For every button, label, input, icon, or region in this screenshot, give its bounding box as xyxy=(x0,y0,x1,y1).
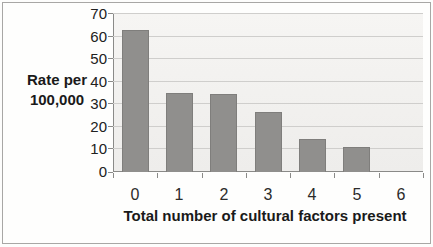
y-tick-label: 40 xyxy=(67,73,107,91)
x-tick-label: 6 xyxy=(386,186,416,204)
x-tick-mark xyxy=(290,173,291,178)
x-tick-label: 3 xyxy=(253,186,283,204)
y-tick-mark xyxy=(108,126,113,127)
x-tick-mark xyxy=(202,173,203,178)
y-tick-mark xyxy=(108,13,113,14)
x-tick-mark xyxy=(113,173,114,178)
y-tick-mark xyxy=(108,36,113,37)
y-tick-label: 30 xyxy=(67,95,107,113)
x-tick-mark xyxy=(423,173,424,178)
gridline xyxy=(113,103,423,104)
gridline xyxy=(113,13,423,14)
y-tick-label: 50 xyxy=(67,50,107,68)
bar xyxy=(255,112,282,172)
y-tick-label: 0 xyxy=(67,163,107,181)
x-tick-label: 2 xyxy=(209,186,239,204)
y-tick-mark xyxy=(108,81,113,82)
gridline xyxy=(113,58,423,59)
y-tick-mark xyxy=(108,103,113,104)
bar xyxy=(210,94,237,172)
bar xyxy=(166,93,193,172)
y-tick-label: 70 xyxy=(67,5,107,23)
bar-chart: Rate per 100,000 Total number of cultura… xyxy=(0,0,433,247)
x-tick-mark xyxy=(334,173,335,178)
bar xyxy=(343,147,370,172)
x-tick-label: 5 xyxy=(342,186,372,204)
gridline xyxy=(113,36,423,37)
y-tick-label: 10 xyxy=(67,140,107,158)
x-tick-label: 4 xyxy=(297,186,327,204)
x-tick-label: 1 xyxy=(164,186,194,204)
x-axis-title: Total number of cultural factors present xyxy=(100,207,430,224)
x-tick-mark xyxy=(157,173,158,178)
bar xyxy=(299,139,326,172)
x-tick-mark xyxy=(379,173,380,178)
y-tick-label: 20 xyxy=(67,118,107,136)
bar xyxy=(122,30,149,172)
x-tick-mark xyxy=(246,173,247,178)
gridline xyxy=(113,81,423,82)
y-tick-label: 60 xyxy=(67,28,107,46)
x-tick-label: 0 xyxy=(120,186,150,204)
y-tick-mark xyxy=(108,58,113,59)
y-tick-mark xyxy=(108,148,113,149)
